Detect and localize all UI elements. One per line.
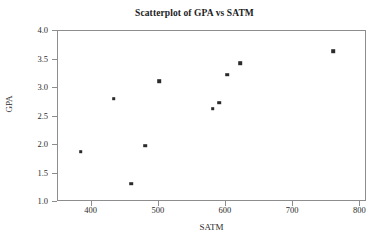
data-point [238,61,242,65]
chart-title: Scatterplot of GPA vs SATM [0,8,389,18]
data-point [332,49,336,53]
x-tick-label: 600 [205,205,245,215]
y-tick-label: 4.0 [8,25,48,35]
data-point [112,97,116,101]
y-tick-mark [52,201,57,202]
y-tick-label: 1.0 [8,196,48,206]
x-tick-label: 400 [71,205,111,215]
plot-area [58,31,365,200]
plot-frame [57,30,366,201]
data-point [158,79,162,83]
data-point [144,144,148,148]
y-tick-label: 2.5 [8,111,48,121]
x-tick-label: 800 [339,205,379,215]
scatterplot-figure: Scatterplot of GPA vs SATM GPA SATM 1.01… [0,0,389,249]
data-point [79,150,83,154]
x-tick-label: 500 [138,205,178,215]
data-point [129,182,133,186]
y-tick-label: 2.0 [8,139,48,149]
y-tick-label: 1.5 [8,168,48,178]
y-tick-label: 3.5 [8,54,48,64]
data-point [217,101,221,105]
x-axis-title: SATM [57,222,366,232]
y-tick-label: 3.0 [8,82,48,92]
data-point [225,73,229,77]
data-point [211,107,215,111]
x-tick-label: 700 [272,205,312,215]
